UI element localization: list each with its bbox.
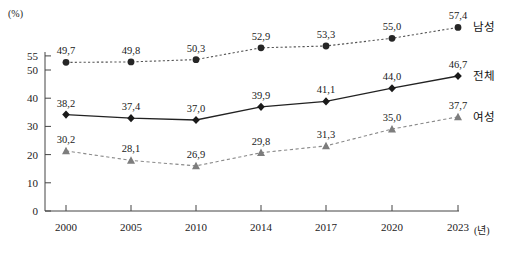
marker-triangle	[454, 113, 462, 121]
data-point-label: 37,7	[449, 100, 467, 111]
marker-circle	[63, 59, 70, 66]
data-point-label: 49,7	[57, 45, 75, 56]
y-tick-label: 40	[27, 92, 39, 104]
marker-diamond	[62, 110, 70, 118]
legend-label-1: 남성	[473, 21, 495, 33]
x-tick-label: 2014	[250, 221, 273, 233]
marker-circle	[193, 56, 200, 63]
data-point-label: 26,9	[187, 149, 205, 160]
data-point-label: 29,8	[252, 136, 270, 147]
x-tick-label: 2023	[447, 221, 470, 233]
line-chart: (%) 0102030405055 2000200520102014201720…	[0, 0, 505, 254]
data-point-label: 50,3	[187, 43, 205, 54]
x-axis-unit-label: (년)	[474, 225, 490, 237]
x-tick-label: 2017	[315, 221, 338, 233]
x-tick-label: 2010	[185, 221, 208, 233]
x-tick-label: 2005	[120, 221, 143, 233]
legend-label-3: 여성	[473, 111, 495, 123]
marker-diamond	[322, 97, 330, 105]
y-tick-label: 20	[27, 149, 39, 161]
data-point-label: 49,8	[122, 45, 140, 56]
marker-circle	[455, 24, 462, 31]
data-point-label: 52,9	[252, 31, 270, 42]
data-point-label: 53,3	[317, 29, 335, 40]
data-point-label: 31,3	[317, 129, 335, 140]
data-point-label: 28,1	[122, 143, 140, 154]
legend-label-2: 전체	[473, 70, 495, 82]
data-point-label: 37,4	[122, 101, 141, 112]
x-axis-ticks: 2000200520102014201720202023	[55, 205, 470, 233]
marker-circle	[323, 43, 330, 50]
data-point-label: 46,7	[449, 59, 467, 70]
y-tick-label: 10	[27, 177, 39, 189]
y-axis-ticks: 0102030405055	[27, 50, 51, 217]
data-point-label: 41,1	[317, 84, 335, 95]
x-tick-label: 2000	[55, 221, 78, 233]
marker-circle	[258, 44, 265, 51]
marker-triangle	[62, 147, 70, 155]
y-tick-label: 0	[33, 205, 39, 217]
data-point-label: 35,0	[383, 112, 401, 123]
y-tick-label: 55	[27, 50, 39, 62]
marker-diamond	[257, 103, 265, 111]
marker-diamond	[454, 72, 462, 80]
data-point-label: 37,0	[187, 103, 205, 114]
chart-canvas: (%) 0102030405055 2000200520102014201720…	[0, 0, 505, 254]
data-point-label: 57,4	[449, 10, 468, 21]
data-point-label: 30,2	[57, 134, 75, 145]
data-point-label: 55,0	[383, 21, 401, 32]
marker-triangle	[322, 142, 330, 150]
y-axis-unit-label: (%)	[8, 8, 23, 20]
marker-diamond	[192, 116, 200, 124]
marker-circle	[128, 59, 135, 66]
x-tick-label: 2020	[381, 221, 404, 233]
marker-triangle	[127, 156, 135, 164]
y-tick-label: 30	[27, 120, 39, 132]
data-point-label: 38,2	[57, 98, 75, 109]
marker-diamond	[388, 84, 396, 92]
legend: 남성전체여성	[473, 21, 495, 122]
y-tick-label: 50	[27, 64, 39, 76]
marker-diamond	[127, 114, 135, 122]
data-point-label: 39,9	[252, 90, 270, 101]
data-point-label: 44,0	[383, 71, 401, 82]
marker-circle	[389, 35, 396, 42]
